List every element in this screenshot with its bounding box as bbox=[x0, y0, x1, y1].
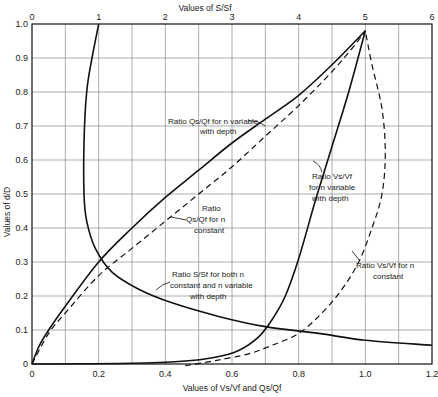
y-tick-label: 0.5 bbox=[15, 189, 28, 199]
y-tick-label: 0 bbox=[23, 359, 28, 369]
annotation-line: constant and n variable bbox=[170, 281, 253, 290]
y-tick-label: 0.3 bbox=[15, 257, 28, 267]
x-tick-label: 0.2 bbox=[92, 369, 105, 379]
annotation-line: Ratio Qs/Qf for n variable bbox=[168, 117, 259, 126]
y-tick-label: 0.2 bbox=[15, 291, 28, 301]
annotation-line: constant bbox=[194, 226, 225, 235]
leader-arrow bbox=[156, 282, 170, 290]
annotation-vs-constant: Ratio Vs/Vf for n constant bbox=[352, 251, 414, 281]
bottom-axis-label: Values of Vs/Vf and Qs/Qf bbox=[183, 383, 282, 393]
annotation-line: for n variable bbox=[309, 183, 356, 192]
x2-tick-label: 2 bbox=[163, 12, 168, 22]
annotation-line: Ratio Vs/Vf for n bbox=[356, 261, 414, 270]
x-tick-label: 1.0 bbox=[359, 369, 372, 379]
leader-arrow bbox=[352, 251, 360, 261]
annotation-line: with depth bbox=[199, 127, 236, 136]
hydraulic-elements-chart: 00.20.40.60.81.01.2012345600.10.20.30.40… bbox=[0, 0, 438, 397]
annotation-line: with depth bbox=[311, 194, 348, 203]
left-axis-label: Values of d/D bbox=[2, 187, 12, 237]
annotation-qs-variable: Ratio Qs/Qf for n variable with depth bbox=[168, 117, 265, 136]
annotation-line: with depth bbox=[189, 292, 226, 301]
x2-tick-label: 3 bbox=[229, 12, 234, 22]
x2-tick-label: 4 bbox=[296, 12, 301, 22]
x2-tick-label: 0 bbox=[29, 12, 34, 22]
annotation-line: constant bbox=[373, 272, 404, 281]
annotation-vs-variable: Ratio Vs/Vf for n variable with depth bbox=[309, 161, 356, 203]
x-tick-label: 1.2 bbox=[426, 369, 438, 379]
y-tick-label: 0.1 bbox=[15, 325, 28, 335]
annotation-s-sf: Ratio S/Sf for both n constant and n var… bbox=[156, 270, 253, 301]
x2-tick-label: 1 bbox=[96, 12, 101, 22]
y-tick-label: 0.7 bbox=[15, 121, 28, 131]
annotation-line: Qs/Qf for n bbox=[186, 215, 225, 224]
leader-arrow bbox=[171, 217, 186, 220]
top-axis-label: Values of S/Sf bbox=[178, 3, 232, 13]
x-tick-label: 0.4 bbox=[159, 369, 172, 379]
y-tick-label: 0.6 bbox=[15, 155, 28, 165]
x-tick-label: 0.6 bbox=[226, 369, 239, 379]
tick-labels: 00.20.40.60.81.01.2012345600.10.20.30.40… bbox=[15, 12, 438, 379]
y-tick-label: 1.0 bbox=[15, 19, 28, 29]
annotation-line: Ratio Vs/Vf bbox=[312, 172, 353, 181]
x-tick-label: 0.8 bbox=[292, 369, 305, 379]
annotation-line: Ratio S/Sf for both n bbox=[172, 270, 244, 279]
annotation-line: Ratio bbox=[202, 204, 221, 213]
x-tick-label: 0 bbox=[29, 369, 34, 379]
annotation-qs-constant: Ratio Qs/Qf for n constant bbox=[171, 204, 225, 235]
y-tick-label: 0.4 bbox=[15, 223, 28, 233]
y-tick-label: 0.9 bbox=[15, 53, 28, 63]
grid-lines bbox=[32, 24, 432, 364]
x2-tick-label: 5 bbox=[363, 12, 368, 22]
y-tick-label: 0.8 bbox=[15, 87, 28, 97]
leader-arrow bbox=[313, 161, 322, 172]
series-curve-4 bbox=[84, 24, 432, 345]
x2-tick-label: 6 bbox=[429, 12, 434, 22]
